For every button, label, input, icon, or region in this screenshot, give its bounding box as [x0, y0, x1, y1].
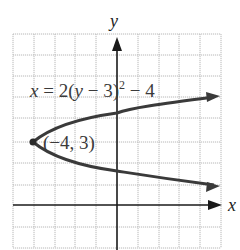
- equation-label: x = 2(y − 3)2 − 4: [29, 78, 155, 102]
- y-axis-label: y: [108, 11, 118, 31]
- vertex-label: (−4, 3): [43, 132, 95, 154]
- x-axis-label: x: [227, 195, 236, 215]
- graph: x y x = 2(y − 3)2 − 4 (−4, 3): [0, 0, 240, 250]
- y-axis-arrow-icon: [112, 37, 122, 51]
- x-axis-arrow-icon: [208, 200, 222, 210]
- vertex-point: [30, 139, 37, 146]
